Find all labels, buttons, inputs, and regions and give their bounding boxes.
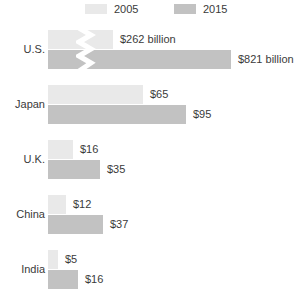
bar-2015[interactable] — [48, 215, 103, 234]
bar-2015[interactable] — [48, 105, 186, 124]
bar-value-label: $12 — [73, 198, 91, 211]
bar-2005[interactable] — [48, 30, 113, 49]
bar-group-2015: $821 billion — [48, 50, 294, 69]
category-label: U.K. — [0, 152, 45, 166]
chart-row: U.K.$16$35 — [0, 132, 308, 187]
bar-group-2005: $16 — [48, 140, 98, 159]
category-label: China — [0, 207, 45, 221]
chart-row: U.S.$262 billion$821 billion — [0, 22, 308, 77]
bar-chart: 2005 2015 U.S.$262 billion$821 billionJa… — [0, 0, 308, 307]
category-label: U.S. — [0, 42, 45, 56]
bar-group-2005: $65 — [48, 85, 168, 104]
bar-2005[interactable] — [48, 140, 73, 159]
category-label: India — [0, 262, 45, 276]
bar-value-label: $35 — [107, 163, 125, 176]
bar-group-2005: $12 — [48, 195, 91, 214]
bar-group-2005: $5 — [48, 250, 77, 269]
bar-group-2015: $37 — [48, 215, 128, 234]
chart-row: Japan$65$95 — [0, 77, 308, 132]
bar-value-label: $37 — [110, 218, 128, 231]
chart-row: China$12$37 — [0, 187, 308, 242]
bar-group-2015: $35 — [48, 160, 125, 179]
bar-value-label: $5 — [65, 253, 77, 266]
legend-swatch-icon-2005 — [85, 4, 107, 14]
bar-2005[interactable] — [48, 250, 58, 269]
bar-group-2015: $16 — [48, 270, 103, 289]
legend-swatch-icon-2015 — [174, 4, 196, 14]
bar-value-label: $16 — [85, 273, 103, 286]
category-label: Japan — [0, 97, 45, 111]
bar-2015[interactable] — [48, 270, 78, 289]
bar-group-2005: $262 billion — [48, 30, 176, 49]
bar-2015[interactable] — [48, 160, 100, 179]
chart-legend: 2005 2015 — [0, 0, 308, 22]
bar-2005[interactable] — [48, 195, 66, 214]
legend-label-2005: 2005 — [114, 3, 138, 15]
legend-item-2015[interactable]: 2015 — [174, 2, 227, 16]
bar-2015[interactable] — [48, 50, 231, 69]
bar-value-label: $821 billion — [238, 53, 294, 66]
bar-value-label: $262 billion — [120, 33, 176, 46]
chart-row: India$5$16 — [0, 242, 308, 297]
bar-value-label: $16 — [80, 143, 98, 156]
bar-value-label: $95 — [193, 108, 211, 121]
legend-item-2005[interactable]: 2005 — [85, 2, 138, 16]
bar-value-label: $65 — [150, 88, 168, 101]
bar-group-2015: $95 — [48, 105, 211, 124]
legend-label-2015: 2015 — [203, 3, 227, 15]
bar-2005[interactable] — [48, 85, 143, 104]
plot-area: U.S.$262 billion$821 billionJapan$65$95U… — [0, 22, 308, 307]
